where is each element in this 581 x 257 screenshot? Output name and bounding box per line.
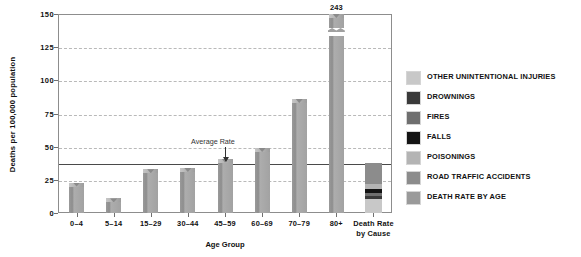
bar-60–69: [255, 148, 270, 213]
x-tick-mark: [336, 213, 337, 217]
bar-45–59: [218, 159, 233, 213]
bar-body: [329, 14, 344, 213]
y-tick-label: 100: [40, 76, 54, 85]
bar-body: [143, 169, 158, 213]
y-axis: Deaths per 100,000 population 0255075100…: [0, 14, 54, 213]
y-tick-label: 25: [45, 175, 54, 184]
stack-segment-other-unintentional-injuries: [365, 199, 382, 213]
legend-item-4: POISONINGS: [406, 149, 581, 169]
y-tick-label: 75: [45, 109, 54, 118]
stack-segment-poisonings: [365, 184, 382, 189]
bar-5–14: [106, 198, 121, 213]
stack-segment-drownings: [365, 196, 382, 199]
bar-15–29: [143, 169, 158, 213]
legend-label: FIRES: [427, 112, 450, 121]
x-tick-mark: [188, 213, 189, 217]
axis-break-zigzag-icon: [328, 28, 345, 36]
y-tick-label: 150: [40, 10, 54, 19]
stacked-bar-death-rate-by-cause: [365, 163, 382, 213]
legend-swatch-icon: [406, 71, 421, 85]
bar-value-label: 243: [316, 3, 356, 12]
legend-swatch-icon: [406, 191, 421, 205]
x-tick-mark: [225, 213, 226, 217]
average-rate-annotation-label: Average Rate: [191, 137, 235, 146]
legend-label: ROAD TRAFFIC ACCIDENTS: [427, 172, 531, 181]
legend-label: OTHER UNINTENTIONAL INJURIES: [427, 72, 555, 81]
legend-label: POISONINGS: [427, 152, 475, 161]
legend-item-3: FALLS: [406, 129, 581, 149]
bar-body: [292, 99, 307, 213]
bar-series: 243: [58, 14, 392, 213]
average-rate-arrow-icon: [225, 147, 226, 161]
legend-item-5: ROAD TRAFFIC ACCIDENTS: [406, 169, 581, 189]
legend-label: DROWNINGS: [427, 92, 475, 101]
legend-item-1: DROWNINGS: [406, 89, 581, 109]
y-axis-title: Deaths per 100,000 population: [8, 15, 17, 215]
x-tick-label-line1: Death Rate: [353, 219, 394, 228]
x-tick-mark: [299, 213, 300, 217]
x-tick-mark: [114, 213, 115, 217]
legend-item-0: OTHER UNINTENTIONAL INJURIES: [406, 69, 581, 89]
bar-70–79: [292, 99, 307, 213]
bar-body: [69, 183, 84, 214]
legend-label: DEATH RATE BY AGE: [427, 192, 506, 201]
legend-swatch-icon: [406, 111, 421, 125]
x-tick-mark: [151, 213, 152, 217]
legend-swatch-icon: [406, 151, 421, 165]
bar-body: [255, 148, 270, 213]
legend-label: FALLS: [427, 132, 451, 141]
bar-0–4: [69, 183, 84, 214]
legend-swatch-icon: [406, 131, 421, 145]
y-tick-label: 50: [45, 142, 54, 151]
x-tick-label-line2: by Cause: [356, 229, 390, 238]
bar-body: [180, 168, 195, 213]
legend-swatch-icon: [406, 171, 421, 185]
stack-segment-road-traffic-accidents: [365, 163, 382, 184]
legend-item-6: DEATH RATE BY AGE: [406, 189, 581, 209]
x-tick-mark: [373, 213, 374, 217]
stack-segment-falls: [365, 189, 382, 194]
chart-figure: Deaths per 100,000 population 0255075100…: [0, 0, 581, 257]
stack-segment-fires: [365, 193, 382, 196]
bar-80+: [329, 14, 344, 213]
x-tick-label-death-rate-by-cause: Death Rateby Cause: [343, 219, 403, 238]
y-tick-mark: [54, 213, 58, 214]
bar-30–44: [180, 168, 195, 213]
y-tick-label: 125: [40, 43, 54, 52]
legend-swatch-icon: [406, 91, 421, 105]
x-axis-title: Age Group: [58, 240, 392, 249]
x-tick-mark: [77, 213, 78, 217]
legend-item-2: FIRES: [406, 109, 581, 129]
legend: OTHER UNINTENTIONAL INJURIESDROWNINGSFIR…: [406, 69, 581, 209]
bar-body: [218, 159, 233, 213]
x-tick-mark: [262, 213, 263, 217]
